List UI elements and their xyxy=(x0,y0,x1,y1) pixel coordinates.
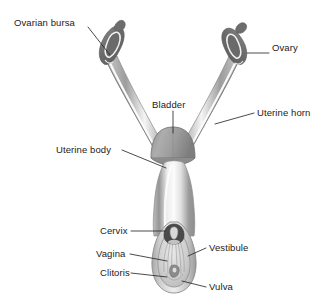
label-clitoris: Clitoris xyxy=(100,267,130,278)
label-vulva: Vulva xyxy=(209,281,233,292)
label-uterine-horn: Uterine horn xyxy=(257,107,310,118)
label-uterine-body: Uterine body xyxy=(56,144,111,155)
right-ovary-mass xyxy=(222,23,247,65)
cervix-opening xyxy=(164,224,184,244)
leader-uterine-horn xyxy=(215,113,254,124)
label-cervix: Cervix xyxy=(100,225,128,236)
left-ovary-mass xyxy=(99,20,125,64)
label-ovarian-bursa: Ovarian bursa xyxy=(14,17,75,28)
label-ovary: Ovary xyxy=(272,42,298,53)
label-vagina: Vagina xyxy=(96,248,125,259)
diagram-canvas: Ovarian bursa Ovary Bladder Uterine horn… xyxy=(0,0,331,307)
label-bladder: Bladder xyxy=(152,99,185,110)
label-vestibule: Vestibule xyxy=(209,242,248,253)
